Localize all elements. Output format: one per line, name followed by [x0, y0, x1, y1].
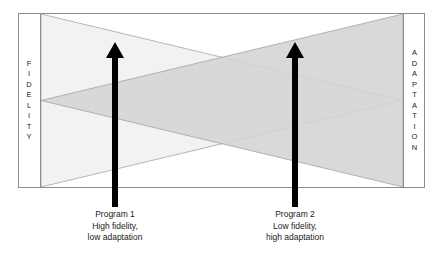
axis-letter: O	[412, 132, 418, 143]
axis-letter: D	[412, 59, 418, 70]
axis-letter: E	[26, 90, 31, 101]
program-2-detail-line-1: Low fidelity,	[220, 221, 370, 233]
wedge-plot-area	[41, 14, 403, 187]
program-1-arrow-up-icon	[105, 42, 125, 207]
axis-letter: A	[412, 48, 418, 59]
axis-letter: L	[26, 101, 31, 112]
fidelity-adaptation-diagram: F I D E L I T Y A D A P T A T I O N	[0, 0, 443, 256]
axis-letter: T	[412, 90, 418, 101]
axis-letter: I	[26, 111, 31, 122]
axis-letter: A	[412, 69, 418, 80]
adaptation-axis-letters: A D A P T A T I O N	[412, 48, 418, 153]
adaptation-axis-label: A D A P T A T I O N	[403, 13, 425, 188]
axis-letter: P	[412, 80, 418, 91]
program-1-title: Program 1	[40, 209, 190, 221]
program-2-title: Program 2	[220, 209, 370, 221]
axis-letter: I	[26, 69, 31, 80]
axis-letter: Y	[26, 132, 31, 143]
program-2-caption: Program 2 Low fidelity, high adaptation	[220, 209, 370, 244]
axis-letter: D	[26, 80, 31, 91]
axis-letter: F	[26, 59, 31, 70]
fidelity-axis-label: F I D E L I T Y	[18, 13, 41, 188]
program-2-arrow-up-icon	[285, 42, 305, 207]
program-2-detail-line-2: high adaptation	[220, 232, 370, 244]
program-1-detail-line-1: High fidelity,	[40, 221, 190, 233]
fidelity-axis-letters: F I D E L I T Y	[26, 59, 31, 143]
axis-letter: T	[412, 111, 418, 122]
program-1-detail-line-2: low adaptation	[40, 232, 190, 244]
axis-letter: A	[412, 101, 418, 112]
axis-letter: T	[26, 122, 31, 133]
axis-letter: I	[412, 122, 418, 133]
program-1-caption: Program 1 High fidelity, low adaptation	[40, 209, 190, 244]
axis-letter: N	[412, 143, 418, 154]
